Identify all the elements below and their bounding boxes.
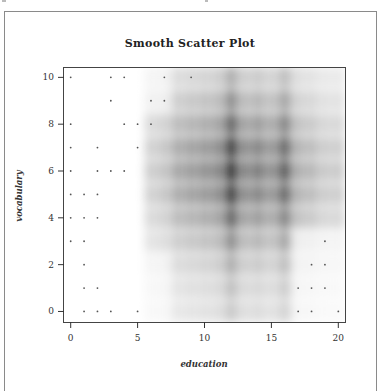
density-cell xyxy=(198,254,210,275)
density-cell xyxy=(212,184,224,205)
density-cell xyxy=(292,137,304,158)
data-point xyxy=(110,100,112,102)
density-cell xyxy=(185,231,197,252)
density-cell xyxy=(158,207,170,228)
density-cell xyxy=(172,160,184,181)
density-cell xyxy=(198,114,210,135)
data-point xyxy=(110,76,112,78)
density-cell xyxy=(212,160,224,181)
density-cell xyxy=(198,160,210,181)
density-cell xyxy=(252,114,264,135)
y-tick-label: 0 xyxy=(48,306,54,316)
y-tick-label: 6 xyxy=(48,166,54,176)
density-cell xyxy=(279,114,291,135)
data-point xyxy=(97,147,99,149)
density-cell xyxy=(252,90,264,111)
y-axis-label: vocabulary xyxy=(14,169,24,222)
data-point xyxy=(311,264,313,266)
density-cell xyxy=(265,114,277,135)
data-point xyxy=(70,217,72,219)
density-cell xyxy=(225,160,237,181)
density-cell xyxy=(225,207,237,228)
data-point xyxy=(83,240,85,242)
density-cell xyxy=(239,231,251,252)
density-cell xyxy=(198,184,210,205)
density-cell xyxy=(265,231,277,252)
data-point xyxy=(297,287,299,289)
density-cell xyxy=(172,137,184,158)
density-cell xyxy=(252,301,264,322)
data-point xyxy=(324,287,326,289)
density-cell xyxy=(279,278,291,299)
density-cell xyxy=(212,231,224,252)
data-point xyxy=(137,147,139,149)
density-cell xyxy=(145,67,157,88)
x-tick-label: 5 xyxy=(135,333,141,343)
density-cell xyxy=(225,231,237,252)
chart-title: Smooth Scatter Plot xyxy=(125,37,256,50)
density-cell xyxy=(198,137,210,158)
density-cell xyxy=(172,184,184,205)
data-point xyxy=(110,311,112,313)
density-cell xyxy=(265,207,277,228)
data-point xyxy=(190,76,192,78)
density-cell xyxy=(172,254,184,275)
density-cell xyxy=(319,207,331,228)
density-cell xyxy=(265,184,277,205)
y-tick-label: 2 xyxy=(48,260,54,270)
density-cell xyxy=(319,160,331,181)
density-cell xyxy=(332,254,344,275)
density-cell xyxy=(319,184,331,205)
density-cell xyxy=(172,67,184,88)
density-cell xyxy=(292,67,304,88)
density-cell xyxy=(292,207,304,228)
density-cell xyxy=(185,90,197,111)
data-point xyxy=(150,100,152,102)
density-cell xyxy=(158,301,170,322)
x-axis: 05101520 xyxy=(68,322,344,343)
density-cell xyxy=(306,160,318,181)
x-tick-label: 0 xyxy=(68,333,74,343)
data-point xyxy=(137,311,139,313)
density-cell xyxy=(279,207,291,228)
density-cell xyxy=(252,67,264,88)
density-cell xyxy=(279,137,291,158)
density-cell xyxy=(172,231,184,252)
data-point xyxy=(311,287,313,289)
density-cell xyxy=(158,160,170,181)
density-cell xyxy=(239,254,251,275)
density-cell xyxy=(332,137,344,158)
density-cell xyxy=(158,184,170,205)
density-cell xyxy=(185,301,197,322)
x-tick-label: 20 xyxy=(333,333,345,343)
data-point xyxy=(83,264,85,266)
density-cell xyxy=(225,254,237,275)
density-cell xyxy=(239,207,251,228)
data-point xyxy=(83,287,85,289)
density-cell xyxy=(172,278,184,299)
density-cell xyxy=(145,184,157,205)
data-point xyxy=(123,76,125,78)
density-layer xyxy=(145,67,344,322)
density-cell xyxy=(279,231,291,252)
density-cell xyxy=(185,137,197,158)
density-cell xyxy=(332,278,344,299)
density-cell xyxy=(252,231,264,252)
density-cell xyxy=(319,137,331,158)
density-cell xyxy=(239,67,251,88)
data-point xyxy=(97,311,99,313)
density-cell xyxy=(239,137,251,158)
data-point xyxy=(311,311,313,313)
density-cell xyxy=(319,67,331,88)
density-cell xyxy=(145,207,157,228)
density-cell xyxy=(332,90,344,111)
density-cell xyxy=(265,278,277,299)
density-cell xyxy=(158,114,170,135)
density-cell xyxy=(145,231,157,252)
y-axis: 0246810 xyxy=(43,72,64,316)
data-point xyxy=(324,240,326,242)
y-tick-label: 8 xyxy=(48,119,54,129)
data-point xyxy=(70,76,72,78)
data-point xyxy=(70,147,72,149)
density-cell xyxy=(225,114,237,135)
